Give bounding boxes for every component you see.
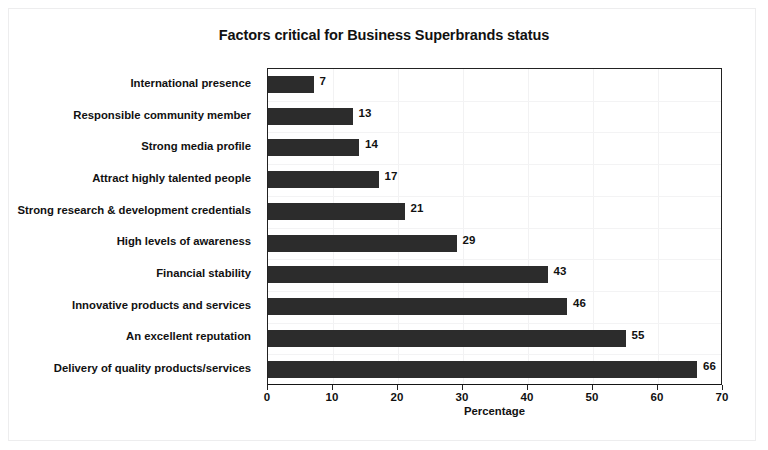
x-tick-mark [462, 385, 463, 390]
x-tick-label: 60 [651, 391, 664, 403]
x-tick-label: 40 [521, 391, 534, 403]
bar-value-label: 66 [703, 360, 716, 372]
x-tick-label: 20 [391, 391, 404, 403]
x-tick-mark [332, 385, 333, 390]
y-axis-label: Financial stability [0, 267, 260, 279]
bar-row: 66 [268, 354, 723, 386]
y-axis-label: Strong media profile [0, 140, 260, 152]
x-tick-label: 10 [326, 391, 339, 403]
y-axis-category-labels: International presenceResponsible commun… [0, 68, 260, 385]
bar-row: 43 [268, 259, 723, 291]
bar-row: 14 [268, 132, 723, 164]
y-axis-label: Responsible community member [0, 109, 260, 121]
bar-value-label: 21 [411, 202, 424, 214]
x-tick-mark [267, 385, 268, 390]
bar[interactable] [268, 266, 548, 283]
y-axis-label: High levels of awareness [0, 235, 260, 247]
bar-row: 13 [268, 101, 723, 133]
bar[interactable] [268, 108, 353, 125]
bar-value-label: 43 [554, 265, 567, 277]
bar-value-label: 46 [573, 297, 586, 309]
x-tick-label: 50 [586, 391, 599, 403]
bar-value-label: 13 [359, 107, 372, 119]
chart-title: Factors critical for Business Superbrand… [0, 27, 768, 43]
bar-row: 17 [268, 164, 723, 196]
x-tick-mark [657, 385, 658, 390]
x-axis-title: Percentage [267, 405, 722, 417]
x-tick-label: 70 [716, 391, 729, 403]
y-axis-label: Attract highly talented people [0, 172, 260, 184]
bar[interactable] [268, 171, 379, 188]
y-axis-label: International presence [0, 77, 260, 89]
y-axis-label: An excellent reputation [0, 330, 260, 342]
x-tick-mark [592, 385, 593, 390]
bar-row: 21 [268, 196, 723, 228]
x-tick-mark [397, 385, 398, 390]
bar-value-label: 17 [385, 170, 398, 182]
x-tick-label: 0 [264, 391, 270, 403]
bar[interactable] [268, 139, 359, 156]
bar[interactable] [268, 203, 405, 220]
bar-row: 7 [268, 69, 723, 101]
y-axis-label: Innovative products and services [0, 299, 260, 311]
bar[interactable] [268, 298, 567, 315]
chart-figure: Factors critical for Business Superbrand… [0, 0, 768, 450]
bar-value-label: 7 [320, 75, 326, 87]
bar-value-label: 14 [365, 138, 378, 150]
bar-row: 55 [268, 323, 723, 355]
bar[interactable] [268, 330, 626, 347]
y-axis-label: Strong research & development credential… [0, 204, 260, 216]
bar-row: 29 [268, 228, 723, 260]
x-tick-label: 30 [456, 391, 469, 403]
y-axis-label: Delivery of quality products/services [0, 362, 260, 374]
bar-value-label: 29 [463, 234, 476, 246]
bar-value-label: 55 [632, 329, 645, 341]
x-tick-mark [527, 385, 528, 390]
bar-row: 46 [268, 291, 723, 323]
bar[interactable] [268, 76, 314, 93]
bar[interactable] [268, 235, 457, 252]
plot-area: 7131417212943465566 [267, 68, 722, 385]
bar[interactable] [268, 361, 697, 378]
x-tick-mark [722, 385, 723, 390]
